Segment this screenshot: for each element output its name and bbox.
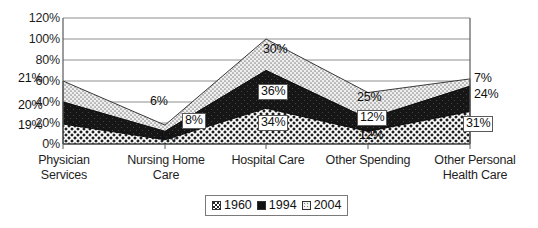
legend-entry-1960: 1960 bbox=[212, 198, 252, 212]
value-label: 12% bbox=[359, 129, 383, 142]
value-label: 19% bbox=[18, 119, 42, 132]
value-label: 31% bbox=[463, 116, 493, 132]
value-label: 24% bbox=[474, 88, 498, 101]
value-label: 25% bbox=[357, 91, 381, 104]
x-category-other-spending: Other Spending bbox=[316, 153, 420, 168]
x-category-line: Other Spending bbox=[316, 153, 420, 168]
x-category-other-personal-health-care: Other Personal Health Care bbox=[420, 153, 530, 183]
light-dotted-swatch-icon bbox=[302, 201, 311, 210]
legend-label: 2004 bbox=[314, 198, 342, 212]
x-tick-marks bbox=[63, 144, 470, 149]
dark-crosshatch-swatch-icon bbox=[212, 201, 221, 210]
x-category-line: Physician bbox=[18, 153, 110, 168]
x-category-nursing-home-care: Nursing Home Care bbox=[110, 153, 222, 183]
x-category-line: Nursing Home bbox=[110, 153, 222, 168]
value-label: 36% bbox=[258, 84, 288, 100]
value-label: 34% bbox=[258, 115, 288, 131]
solid-black-swatch-icon bbox=[257, 201, 266, 210]
value-label: 7% bbox=[474, 72, 492, 85]
value-label: 12% bbox=[357, 110, 387, 126]
chart-legend: 1960 1994 2004 bbox=[205, 195, 348, 216]
x-category-line: Health Care bbox=[420, 168, 530, 183]
x-category-line: Care bbox=[110, 168, 222, 183]
x-category-hospital-care: Hospital Care bbox=[222, 153, 314, 168]
legend-entry-2004: 2004 bbox=[302, 198, 342, 212]
value-label: 20% bbox=[18, 99, 42, 112]
plot-area bbox=[0, 0, 538, 160]
value-label: 8% bbox=[182, 113, 206, 129]
x-category-line: Hospital Care bbox=[222, 153, 314, 168]
x-category-line: Services bbox=[18, 168, 110, 183]
value-label: 21% bbox=[18, 72, 42, 85]
x-axis: Physician Services Nursing Home Care Hos… bbox=[0, 150, 538, 190]
legend-label: 1994 bbox=[269, 198, 297, 212]
stacked-area-chart: 120% 100% 80% 60% 40% 20% 0% bbox=[0, 0, 538, 228]
x-category-line: Other Personal bbox=[420, 153, 530, 168]
legend-entry-1994: 1994 bbox=[257, 198, 297, 212]
value-label: 6% bbox=[150, 95, 168, 108]
value-label: 30% bbox=[263, 43, 287, 56]
x-category-physician-services: Physician Services bbox=[18, 153, 110, 183]
value-label: 4% bbox=[158, 131, 176, 144]
legend-label: 1960 bbox=[224, 198, 252, 212]
